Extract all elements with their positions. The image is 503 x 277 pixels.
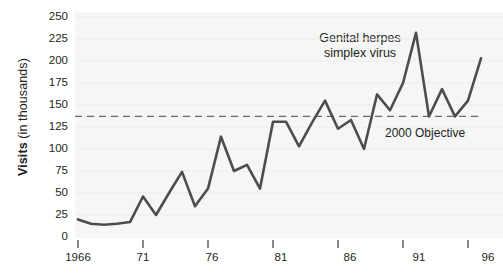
chart-container: Visits (in thousands) 250 225 200 175 15… xyxy=(0,0,503,277)
axis-ticks xyxy=(78,240,468,248)
chart-svg xyxy=(0,0,503,277)
data-line-genital-herpes xyxy=(78,33,481,225)
